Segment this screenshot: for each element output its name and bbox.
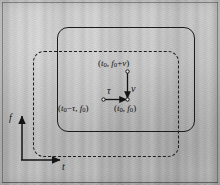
figure-canvas: f t (t0, f0+ν) (t0−τ, f0) (t0, f0) τ ν [0,0,220,185]
t-axis-label: t [62,162,65,172]
point-marker-t0-f0-plus-nu [126,70,129,73]
label-point-t0-f0-plus-nu: (t0, f0+ν) [98,59,129,69]
paren-close: ) [126,58,129,68]
point-marker-t0-minus-tau-f0 [102,98,105,101]
f-axis-label: f [9,113,12,123]
label-point-t0-minus-tau-f0: (t0−τ, f0) [58,104,88,114]
point-marker-t0-f0 [126,98,129,101]
paren-close: ) [133,103,136,113]
paren-close: ) [85,103,88,113]
tau-offset-label: τ [107,86,111,96]
nu-offset-label: ν [131,84,135,94]
label-point-t0-f0: (t0, f0) [114,104,136,114]
